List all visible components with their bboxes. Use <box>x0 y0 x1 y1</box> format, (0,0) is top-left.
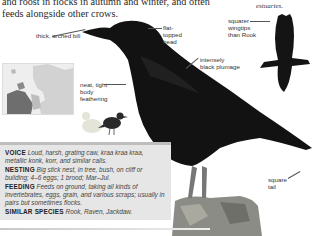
label-head: flat-topped head <box>163 24 191 45</box>
flying-crow-silhouette <box>256 14 316 94</box>
leader-line <box>250 21 270 22</box>
divider <box>0 228 210 230</box>
label-plumage: intensely black plumage <box>200 56 240 70</box>
leader-line <box>148 28 162 29</box>
feeding-entry: FEEDING Feeds on ground, taking all kind… <box>5 183 166 208</box>
voice-entry: VOICE Loud, harsh, grating caw, kraa kra… <box>5 149 166 166</box>
nesting-entry: NESTING Big stick nest, in tree, bush, o… <box>5 166 166 183</box>
leader-line <box>104 84 126 85</box>
similar-species-entry: SIMILAR SPECIES Rook, Raven, Jackdaw. <box>5 208 166 216</box>
europe-map-icon <box>3 64 73 114</box>
side-note: estuaries. <box>256 2 283 10</box>
species-info-box: VOICE Loud, harsh, grating caw, kraa kra… <box>0 142 171 220</box>
distribution-map <box>2 63 74 115</box>
